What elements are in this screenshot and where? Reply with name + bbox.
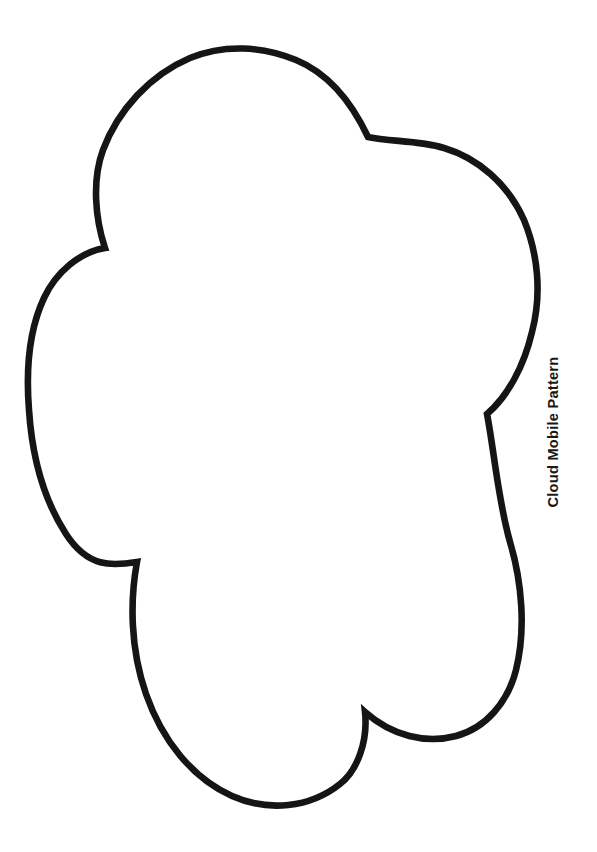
cloud-pattern-canvas [0, 0, 597, 852]
pattern-caption-label: Cloud Mobile Pattern [546, 357, 561, 508]
pattern-page: Cloud Mobile Pattern [0, 0, 597, 852]
